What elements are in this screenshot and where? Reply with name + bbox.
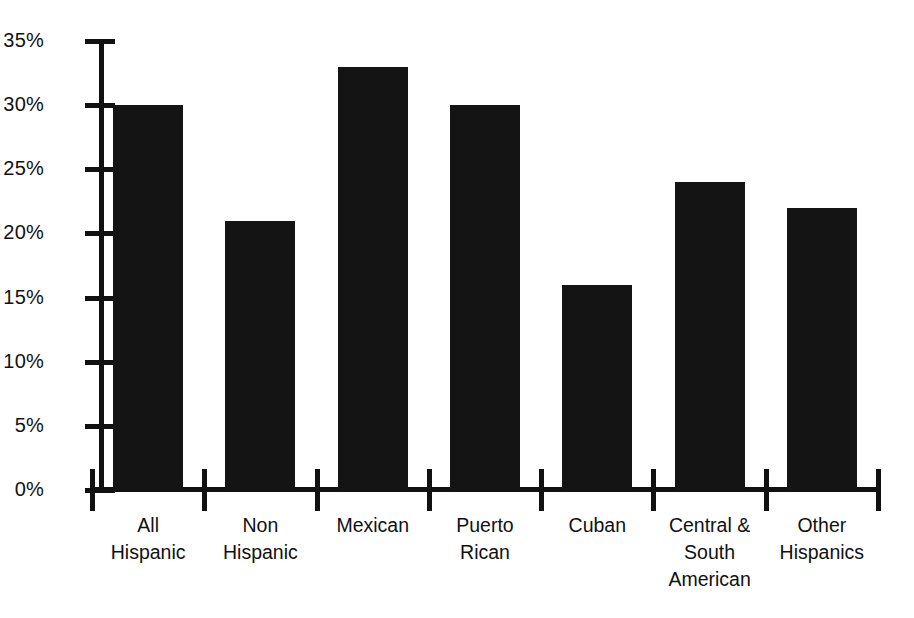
x-axis-category-label: Cuban xyxy=(541,512,653,539)
bar xyxy=(225,221,295,490)
category-divider xyxy=(202,469,207,511)
bar xyxy=(562,285,632,490)
bar xyxy=(113,105,183,490)
category-divider xyxy=(539,469,544,511)
bar-chart-figure: 35%30%25%20%15%10%5%0% All HispanicNon H… xyxy=(0,0,914,618)
x-axis-category-label: All Hispanic xyxy=(92,512,204,566)
category-divider xyxy=(651,469,656,511)
x-axis-category-label: Mexican xyxy=(317,512,429,539)
category-divider xyxy=(876,469,881,511)
x-axis-category-label: Non Hispanic xyxy=(204,512,316,566)
category-divider xyxy=(764,469,769,511)
bar xyxy=(675,182,745,490)
bar xyxy=(338,67,408,490)
x-axis-category-label: Puerto Rican xyxy=(429,512,541,566)
category-divider xyxy=(90,469,95,511)
x-axis-category-label: Other Hispanics xyxy=(766,512,878,566)
category-divider xyxy=(427,469,432,511)
x-axis-category-label: Central & South American xyxy=(653,512,765,593)
bar xyxy=(450,105,520,490)
bar xyxy=(787,208,857,490)
category-divider xyxy=(315,469,320,511)
